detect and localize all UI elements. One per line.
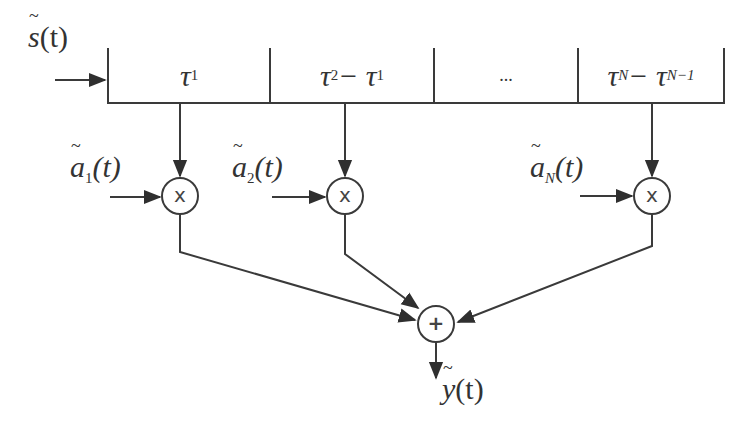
path-2-to-sum bbox=[345, 214, 418, 308]
output-signal-label: y(t) bbox=[442, 372, 484, 406]
path-N-to-sum bbox=[458, 214, 652, 322]
delay-cell-1: τ1 bbox=[108, 48, 270, 103]
delay-cell-N: τN − τN−1 bbox=[578, 48, 724, 103]
input-signal-label: s(t) bbox=[28, 20, 68, 54]
multiplier-N-symbol: x bbox=[634, 177, 670, 213]
coef-1-label: a1(t) bbox=[70, 150, 121, 187]
input-signal-base: s bbox=[28, 20, 40, 54]
summer-symbol: + bbox=[418, 305, 454, 341]
multiplier-1-symbol: x bbox=[162, 177, 198, 213]
coef-N-label: aN(t) bbox=[530, 150, 583, 187]
delay-cell-2: τ2 − τ1 bbox=[270, 48, 434, 103]
input-signal-arg: (t) bbox=[40, 20, 68, 53]
coef-2-label: a2(t) bbox=[232, 150, 283, 187]
delay-cell-ellipsis: ... bbox=[434, 48, 578, 103]
multiplier-2-symbol: x bbox=[327, 177, 363, 213]
path-1-to-sum bbox=[180, 214, 415, 320]
